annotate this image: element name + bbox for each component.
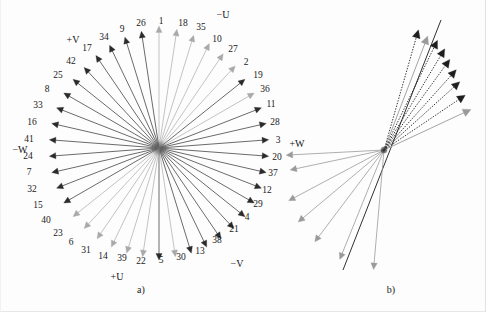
axis-label-V: +V (67, 35, 80, 45)
vector-label-13: 13 (195, 247, 205, 257)
vector-label-9: 9 (120, 25, 125, 35)
vector-label-7: 7 (27, 168, 32, 178)
vector-label-35: 35 (196, 23, 206, 33)
vector-label-11: 11 (266, 100, 275, 110)
vector-label-6: 6 (69, 238, 74, 248)
vector-label-28: 28 (270, 118, 280, 128)
vector-label-27: 27 (228, 45, 238, 55)
panel-b-vector-field (301, 0, 486, 312)
panel-a-origin-hub (151, 140, 167, 156)
vector-label-8: 8 (45, 85, 50, 95)
panel-b-origin-hub (381, 147, 388, 154)
vector-label-5: 5 (159, 256, 164, 266)
panel-a-vector-field (1, 0, 301, 312)
vector-label-32: 32 (27, 185, 37, 195)
axis-label-U: +U (111, 272, 124, 282)
vector-label-15: 15 (33, 201, 43, 211)
vector-label-14: 14 (98, 252, 108, 262)
vector-label-16: 16 (27, 118, 37, 128)
vector-label-39: 39 (117, 254, 127, 264)
vector-label-30: 30 (176, 253, 186, 263)
vector-label-1: 1 (159, 17, 164, 27)
vector-label-2: 2 (244, 58, 249, 68)
axis-label-V: −V (231, 259, 244, 269)
vector-label-4: 4 (245, 213, 250, 223)
vector-label-23: 23 (53, 229, 63, 239)
vector-label-37: 37 (268, 169, 278, 179)
panel-b: b) (301, 0, 486, 312)
vector-label-31: 31 (81, 246, 91, 256)
vector-label-36: 36 (260, 85, 270, 95)
vector-label-25: 25 (53, 71, 63, 81)
vector-label-3: 3 (276, 136, 281, 146)
vector-label-10: 10 (212, 35, 222, 45)
axis-label-U: −U (217, 10, 230, 20)
vector-label-20: 20 (272, 153, 282, 163)
figure-container: 1183510272193611283203712294213813305223… (0, 0, 486, 312)
vector-label-18: 18 (178, 19, 188, 29)
panel-a-caption: a) (137, 284, 145, 295)
vector-label-21: 21 (229, 225, 239, 235)
vector-label-40: 40 (41, 216, 51, 226)
vector-label-34: 34 (99, 33, 109, 43)
vector-label-26: 26 (136, 19, 146, 29)
panel-a: 1183510272193611283203712294213813305223… (1, 0, 301, 312)
vector-label-19: 19 (253, 71, 263, 81)
vector-label-29: 29 (253, 200, 263, 210)
axis-label-W: −W (12, 145, 27, 155)
vector-label-22: 22 (136, 257, 146, 267)
vector-label-33: 33 (33, 101, 43, 111)
panel-b-caption: b) (387, 284, 395, 295)
vector-label-38: 38 (212, 236, 222, 246)
vector-label-12: 12 (262, 186, 272, 196)
vector-label-42: 42 (66, 57, 76, 67)
vector-label-17: 17 (82, 44, 92, 54)
